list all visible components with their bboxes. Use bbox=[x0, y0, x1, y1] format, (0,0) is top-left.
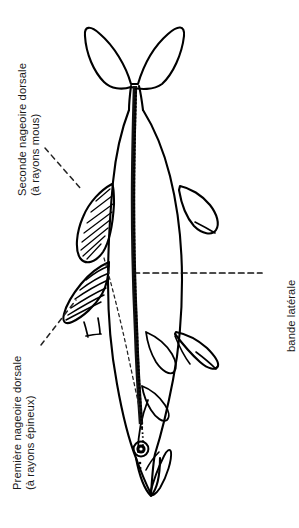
label-lateral-band: bande latérale bbox=[285, 280, 298, 352]
diagram-background bbox=[0, 0, 299, 528]
label-first-dorsal-line2: (à rayons épineux) bbox=[24, 356, 37, 490]
fish-nostril-dot bbox=[139, 467, 141, 469]
label-first-dorsal-line1: Première nageoire dorsale bbox=[11, 356, 24, 490]
fish-nostril-dot bbox=[139, 462, 142, 465]
label-second-dorsal-line2: (à rayons mous) bbox=[29, 63, 42, 196]
label-second-dorsal-fin: Seconde nageoire dorsale (à rayons mous) bbox=[16, 63, 43, 196]
label-second-dorsal-line1: Seconde nageoire dorsale bbox=[16, 63, 29, 196]
label-first-dorsal-fin: Première nageoire dorsale (à rayons épin… bbox=[11, 356, 38, 490]
fish-anatomy-diagram: Seconde nageoire dorsale (à rayons mous)… bbox=[0, 0, 299, 528]
label-lateral-band-line1: bande latérale bbox=[285, 280, 298, 352]
fish-drawing bbox=[0, 0, 299, 528]
